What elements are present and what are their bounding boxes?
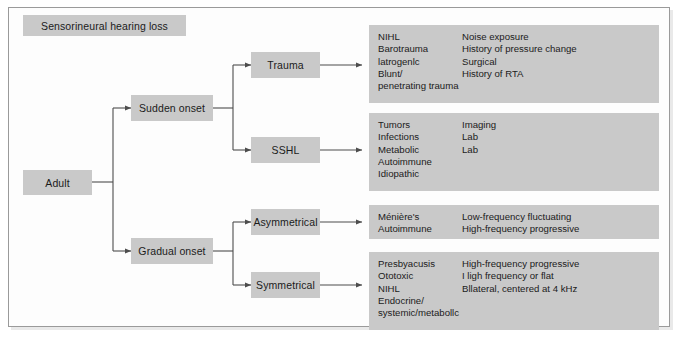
node-sudden-onset-label: Sudden onset [139, 102, 205, 114]
panel-row-cause: Idiopathic [378, 168, 462, 180]
panel-row: InfectionsLab [378, 131, 651, 143]
panel-row: Idiopathic [378, 168, 651, 180]
panel-asymmetrical: Ménière'sLow-frequency fluctuatingAutoim… [369, 205, 659, 239]
panel-row: Blunt/History of RTA [378, 68, 651, 80]
panel-row-finding: High-frequency progressive [462, 258, 651, 270]
node-sshl-label: SSHL [272, 144, 300, 156]
panel-row: PresbyacusisHigh-frequency progressive [378, 258, 651, 270]
panel-row-finding: High-frequency progressive [462, 223, 651, 235]
panel-row-finding [462, 168, 651, 180]
panel-row-cause: Barotrauma [378, 43, 462, 55]
panel-row-finding: Imaging [462, 119, 651, 131]
panel-row-cause: Tumors [378, 119, 462, 131]
panel-row-finding: Lab [462, 144, 651, 156]
panel-row-cause: Presbyacusis [378, 258, 462, 270]
panel-row: BarotraumaHistory of pressure change [378, 43, 651, 55]
panel-symmetrical-rows: PresbyacusisHigh-frequency progressiveOt… [378, 258, 651, 319]
node-sshl[interactable]: SSHL [251, 137, 320, 163]
title-box: Sensorineural hearing loss [23, 15, 186, 36]
panel-row-finding: History of pressure change [462, 43, 651, 55]
panel-row-cause: Autoimmune [378, 156, 462, 168]
node-asymmetrical-label: Asymmetrical [253, 216, 317, 228]
panel-row-finding: Surgical [462, 56, 651, 68]
panel-row: AutoimmuneHigh-frequency progressive [378, 223, 651, 235]
node-trauma[interactable]: Trauma [251, 52, 320, 78]
panel-row-cause: NIHL [378, 283, 462, 295]
panel-row-cause: systemic/metabollc [378, 307, 462, 319]
panel-row: TumorsImaging [378, 119, 651, 131]
panel-sshl: TumorsImagingInfectionsLabMetabolicLabAu… [369, 113, 659, 191]
panel-sshl-rows: TumorsImagingInfectionsLabMetabolicLabAu… [378, 119, 651, 180]
panel-row-cause: Ototoxic [378, 270, 462, 282]
node-symmetrical[interactable]: Symmetrical [251, 272, 320, 298]
panel-row-cause: Endocrine/ [378, 295, 462, 307]
panel-row-finding [462, 307, 651, 319]
panel-row-cause: latrogenlc [378, 56, 462, 68]
panel-trauma: NIHLNoise exposureBarotraumaHistory of p… [369, 25, 659, 103]
panel-row-cause: penetrating trauma [378, 80, 462, 92]
panel-row-finding: Bllateral, centered at 4 kHz [462, 283, 651, 295]
title-box-label: Sensorineural hearing loss [41, 20, 168, 32]
node-asymmetrical[interactable]: Asymmetrical [251, 209, 320, 235]
node-gradual-onset-label: Gradual onset [138, 245, 205, 257]
panel-row: MetabolicLab [378, 144, 651, 156]
panel-row: OtotoxicI ligh frequency or flat [378, 270, 651, 282]
panel-row: penetrating trauma [378, 80, 651, 92]
figure-root: Sensorineural hearing loss Adult Sudden … [0, 0, 682, 341]
node-adult[interactable]: Adult [23, 170, 92, 195]
panel-row: Ménière'sLow-frequency fluctuating [378, 211, 651, 223]
panel-row-cause: Metabolic [378, 144, 462, 156]
panel-row-finding [462, 80, 651, 92]
panel-row-finding: Noise exposure [462, 31, 651, 43]
panel-row-finding [462, 295, 651, 307]
panel-row: Endocrine/ [378, 295, 651, 307]
panel-row: NIHLBllateral, centered at 4 kHz [378, 283, 651, 295]
panel-row-cause: Autoimmune [378, 223, 462, 235]
panel-row-finding: Lab [462, 131, 651, 143]
panel-row-cause: NIHL [378, 31, 462, 43]
panel-row-finding: I ligh frequency or flat [462, 270, 651, 282]
panel-row: systemic/metabollc [378, 307, 651, 319]
node-trauma-label: Trauma [267, 59, 303, 71]
panel-row: latrogenlcSurgical [378, 56, 651, 68]
panel-row-finding [462, 156, 651, 168]
panel-row: Autoimmune [378, 156, 651, 168]
panel-row-cause: Infections [378, 131, 462, 143]
panel-row-cause: Ménière's [378, 211, 462, 223]
panel-symmetrical: PresbyacusisHigh-frequency progressiveOt… [369, 252, 659, 330]
panel-asymmetrical-rows: Ménière'sLow-frequency fluctuatingAutoim… [378, 211, 651, 236]
panel-row: NIHLNoise exposure [378, 31, 651, 43]
node-symmetrical-label: Symmetrical [256, 279, 315, 291]
node-adult-label: Adult [45, 177, 69, 189]
panel-row-finding: History of RTA [462, 68, 651, 80]
panel-row-finding: Low-frequency fluctuating [462, 211, 651, 223]
panel-trauma-rows: NIHLNoise exposureBarotraumaHistory of p… [378, 31, 651, 92]
panel-row-cause: Blunt/ [378, 68, 462, 80]
node-sudden-onset[interactable]: Sudden onset [131, 95, 213, 121]
node-gradual-onset[interactable]: Gradual onset [131, 238, 213, 264]
